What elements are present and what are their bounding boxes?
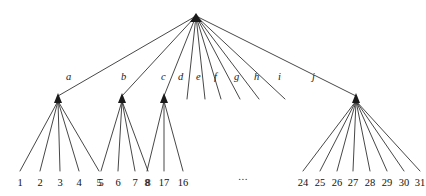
root-edge-to-node-j	[196, 16, 356, 96]
root-node-marker	[190, 13, 202, 22]
edge-labels: abcdefghij	[66, 71, 315, 82]
edge-i	[196, 16, 285, 99]
node-b-marker	[118, 93, 126, 103]
leaf-label: 4	[76, 177, 82, 188]
node-c-marker	[160, 93, 168, 103]
leaf-label: 6	[115, 177, 120, 188]
leaf-label: 7	[132, 177, 137, 188]
leaf-label: 17	[159, 177, 170, 188]
edge-label-h: h	[254, 71, 259, 82]
leaf-edges	[20, 101, 420, 171]
edge-label-e: e	[196, 71, 201, 82]
leaf-label: 3	[57, 177, 62, 188]
leaf-label: 26	[332, 177, 343, 188]
leaf-group-j-edge-5	[356, 101, 387, 171]
edge-label-g: g	[234, 71, 239, 82]
edge-label-b: b	[121, 71, 126, 82]
root-edges	[58, 16, 356, 96]
stub-edges	[187, 16, 285, 99]
leaf-group-b-edge-2	[122, 101, 135, 171]
leaf-group-a-edge-1	[40, 101, 58, 171]
leaf-label: 24	[298, 177, 309, 188]
leaf-group-j-edge-1	[320, 101, 356, 171]
root-edge-to-node-b	[122, 16, 196, 96]
edge-d	[187, 16, 196, 99]
leaf-label: 29	[382, 177, 393, 188]
leaf-label: 25	[315, 177, 326, 188]
tree-diagram-figure: abcdefghij 12345567881716242526272829303…	[0, 0, 426, 196]
leaf-group-c-edge-0	[147, 101, 164, 171]
tree-svg: abcdefghij 12345567881716242526272829303…	[0, 0, 426, 196]
leaf-group-a-edge-2	[58, 101, 60, 171]
edge-e	[196, 16, 205, 99]
leaf-group-b-edge-3	[122, 101, 148, 171]
leaf-label: 1	[17, 177, 22, 188]
leaf-labels: 123455678817162425262728293031	[17, 177, 425, 188]
leaf-label: 5	[98, 177, 103, 188]
ellipsis-label: ...	[238, 170, 248, 182]
edge-label-j: j	[310, 71, 315, 82]
leaf-group-a-edge-4	[58, 101, 99, 171]
leaf-group-a-edge-3	[58, 101, 79, 171]
leaf-label: 2	[37, 177, 42, 188]
leaf-group-a-edge-0	[20, 101, 58, 171]
leaf-label: 8	[144, 177, 149, 188]
leaf-label: 16	[178, 177, 189, 188]
edge-label-f: f	[214, 71, 219, 82]
edge-g	[196, 16, 240, 99]
leaf-group-j-edge-0	[303, 101, 356, 171]
edge-label-d: d	[178, 71, 184, 82]
leaf-label: 28	[365, 177, 376, 188]
leaf-label: 30	[399, 177, 410, 188]
leaf-group-j-edge-7	[356, 101, 420, 171]
edge-f	[196, 16, 221, 99]
root-edge-to-node-c	[164, 16, 196, 96]
root-edge-to-node-a	[58, 16, 196, 96]
leaf-label: 27	[348, 177, 359, 188]
edge-label-i: i	[278, 71, 281, 82]
leaf-label: 31	[415, 177, 426, 188]
edge-label-c: c	[161, 71, 166, 82]
leaf-group-c-edge-2	[164, 101, 183, 171]
edge-h	[196, 16, 259, 99]
edge-label-a: a	[66, 71, 71, 82]
